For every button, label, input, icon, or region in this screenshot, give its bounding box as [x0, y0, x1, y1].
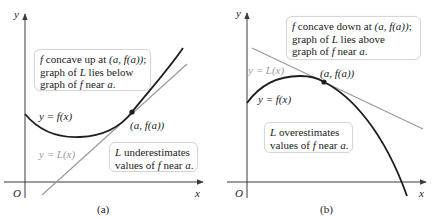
callout-line: graph of f near a. [292, 45, 415, 58]
panel-a-tangent-label: y = L(x) [39, 148, 75, 160]
callout-text: . [365, 45, 368, 57]
panel-b-tangency-point [321, 79, 326, 84]
callout-line: values of f near a. [270, 139, 347, 152]
panel-a-curve-label: y = f(x) [39, 110, 72, 122]
panel-b-curve-label: y = f(x) [258, 93, 291, 105]
callout-text: concave down at [295, 20, 374, 32]
panel-b-estimate-callout: L overestimates values of f near a. [264, 122, 353, 153]
callout-text: ; [143, 53, 146, 65]
panel-b-x-axis-label: x [419, 187, 424, 199]
callout-text: graph of [292, 33, 332, 45]
callout-text: near [161, 159, 185, 171]
panel-b-concavity-callout: f concave down at (a, f(a)); graph of L … [286, 16, 421, 60]
concavity-tangent-diagram: y O x f concave up at (a, f(a)); graph o… [0, 0, 432, 218]
callout-text: near [316, 139, 340, 151]
callout-text: ; [409, 20, 412, 32]
callout-text: graph of [292, 45, 332, 57]
panel-b-point-label: (a, f(a)) [320, 67, 354, 79]
callout-text: . [191, 159, 194, 171]
panel-b-caption: (b) [320, 203, 333, 215]
callout-text: values of [270, 139, 313, 151]
panel-a-point-label: (a, f(a)) [130, 119, 164, 131]
callout-text: underestimates [121, 146, 190, 158]
callout-text: lies below [86, 66, 134, 78]
panel-a-origin-label: O [13, 187, 21, 199]
callout-text: . [346, 139, 349, 151]
callout-line: values of f near a. [115, 159, 192, 172]
panel-a-y-axis-label: y [14, 8, 19, 20]
callout-text: near [335, 45, 359, 57]
panel-b-tangent-label: y = L(x) [248, 64, 284, 76]
callout-math: (a, f(a)) [374, 20, 408, 32]
callout-line: f concave down at (a, f(a)); [292, 20, 415, 33]
callout-line: graph of L lies above [292, 33, 415, 46]
callout-line: graph of L lies below [40, 66, 145, 79]
callout-text: graph of [40, 66, 80, 78]
panel-a-x-axis-label: x [195, 187, 200, 199]
callout-math: (a, f(a)) [109, 53, 143, 65]
callout-line: L overestimates [270, 126, 347, 139]
panel-a-tangency-point [129, 109, 134, 114]
panel-b-origin-label: O [235, 187, 243, 199]
callout-text: concave up at [43, 53, 109, 65]
panel-b-y-axis-label: y [236, 7, 241, 19]
callout-text: lies above [338, 33, 385, 45]
panel-a-concavity-callout: f concave up at (a, f(a)); graph of L li… [34, 49, 151, 91]
panel-a-caption: (a) [97, 203, 109, 215]
callout-text: overestimates [276, 126, 339, 138]
callout-line: L underestimates [115, 146, 192, 159]
callout-line: f concave up at (a, f(a)); [40, 53, 145, 66]
panel-b-tangent-line [252, 48, 423, 129]
callout-text: values of [115, 159, 158, 171]
callout-text: graph of [40, 78, 80, 90]
callout-text: near [83, 78, 107, 90]
callout-line: graph of f near a. [40, 78, 145, 91]
callout-text: . [113, 78, 116, 90]
panel-a-estimate-callout: L underestimates values of f near a. [109, 142, 198, 172]
